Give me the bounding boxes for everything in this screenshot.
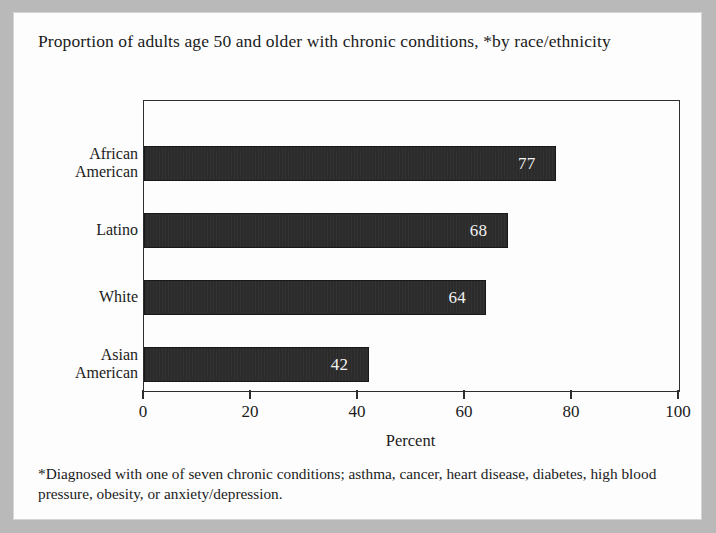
category-label: AsianAmerican — [18, 346, 138, 382]
bar — [144, 280, 486, 315]
bar-value-label: 68 — [470, 220, 488, 240]
axis-tick — [356, 390, 358, 399]
axis-tick-label: 80 — [541, 402, 601, 422]
bar-row: 42 — [144, 347, 679, 382]
axis-tick-label: 100 — [648, 402, 708, 422]
figure-footnote: *Diagnosed with one of seven chronic con… — [38, 464, 658, 503]
bar — [144, 146, 556, 181]
bar-row: 68 — [144, 213, 679, 248]
axis-tick-label: 20 — [220, 402, 280, 422]
axis-tick — [677, 390, 679, 399]
axis-tick — [142, 390, 144, 399]
category-label: White — [18, 288, 138, 306]
bar-value-label: 64 — [448, 287, 466, 307]
category-label: Latino — [18, 221, 138, 239]
page-sheet: Proportion of adults age 50 and older wi… — [14, 13, 701, 519]
bar-value-label: 42 — [331, 354, 349, 374]
category-label: AfricanAmerican — [18, 145, 138, 181]
axis-tick-label: 0 — [113, 402, 173, 422]
bar-row: 77 — [144, 146, 679, 181]
axis-tick — [570, 390, 572, 399]
axis-tick-label: 40 — [327, 402, 387, 422]
scanned-page-surround: Proportion of adults age 50 and older wi… — [0, 0, 716, 533]
bars-layer: 77686442 — [144, 101, 679, 391]
x-axis-title: Percent — [143, 431, 678, 451]
bar — [144, 213, 508, 248]
axis-tick-label: 60 — [434, 402, 494, 422]
axis-tick — [463, 390, 465, 399]
plot-area: 77686442 — [143, 100, 680, 392]
bar-row: 64 — [144, 280, 679, 315]
axis-tick — [249, 390, 251, 399]
figure-title: Proportion of adults age 50 and older wi… — [38, 30, 638, 52]
bar-value-label: 77 — [518, 153, 536, 173]
category-axis-labels: AfricanAmericanLatinoWhiteAsianAmerican — [14, 100, 138, 390]
